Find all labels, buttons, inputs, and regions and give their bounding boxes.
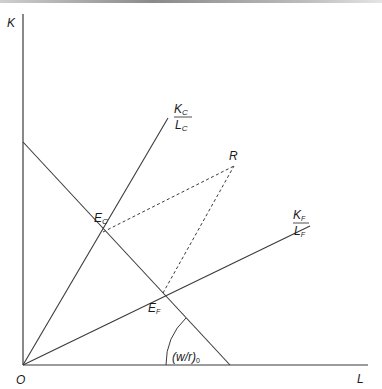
dashed-ec-to-r	[103, 166, 234, 232]
svg-text:KC: KC	[174, 102, 188, 117]
ray-kc-lc	[23, 118, 168, 365]
ray-f-label: KF LF	[293, 208, 309, 238]
point-r-label: R	[229, 149, 238, 163]
edgeworth-box-diagram: K L O KC LC KF LF EC EF R (w/r)0	[0, 0, 382, 389]
isocost-line	[23, 142, 230, 365]
point-ef-label: EF	[148, 301, 161, 315]
angle-label: (w/r)0	[172, 350, 200, 364]
origin-label: O	[16, 373, 25, 387]
point-ec-label: EC	[94, 211, 108, 226]
svg-text:LF: LF	[294, 224, 306, 238]
x-axis-label: L	[357, 372, 364, 386]
svg-text:LC: LC	[175, 118, 188, 133]
ray-c-label: KC LC	[174, 102, 192, 133]
svg-text:KF: KF	[293, 208, 306, 222]
dashed-ef-to-r	[163, 166, 234, 293]
ray-kf-lf	[23, 226, 310, 365]
y-axis-label: K	[7, 16, 16, 30]
